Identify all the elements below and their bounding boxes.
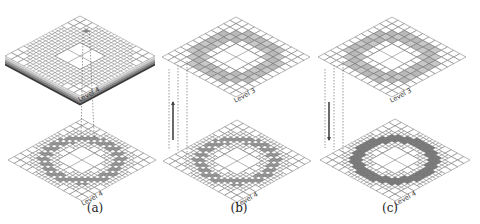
caption-a: (a): [75, 201, 115, 215]
panel-c-bottom-grid: [320, 119, 470, 201]
panel-b: Level 3Level 4: [162, 17, 311, 209]
panel-b-up-arrow-icon: [171, 101, 175, 140]
panel-c-top-grid: [318, 17, 466, 97]
multilevel-grid-diagram: Level 4Level 4Level 3Level 4Level 3Level…: [0, 0, 480, 224]
panel-a-top-grid: [5, 16, 155, 106]
panel-c: Level 3Level 4: [318, 17, 470, 208]
panel-b-top-grid: [162, 17, 310, 97]
panel-b-bottom-grid: [163, 120, 311, 202]
panel-c-down-arrow-icon: [327, 102, 331, 141]
panel-b-projection-lines: [169, 61, 187, 153]
caption-b: (b): [219, 201, 259, 215]
panel-a-bottom-grid: [8, 119, 156, 201]
caption-c: (c): [370, 201, 410, 215]
panel-a: Level 4Level 4: [5, 16, 156, 208]
